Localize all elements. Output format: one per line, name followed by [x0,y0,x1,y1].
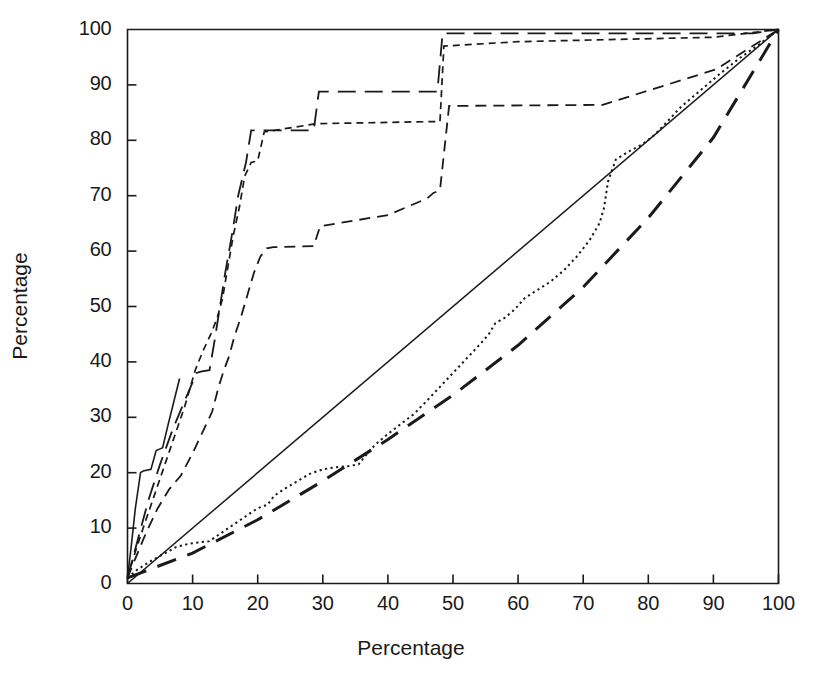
x-axis-ticks [128,575,779,584]
y-tick-label: 50 [0,294,112,317]
x-tick-label: 100 [739,592,819,615]
y-tick-label: 60 [0,238,112,261]
y-tick-label: 80 [0,127,112,150]
y-tick-label: 100 [0,17,112,40]
data-series-group [128,30,779,584]
lorenz-curve-chart: Percentage Percentage 010203040506070809… [0,0,822,682]
series-equality-line [128,30,779,584]
y-tick-label: 70 [0,183,112,206]
y-tick-label: 30 [0,404,112,427]
y-tick-label: 90 [0,72,112,95]
y-tick-label: 0 [0,571,112,594]
y-tick-label: 10 [0,515,112,538]
y-tick-label: 40 [0,349,112,372]
chart-canvas: Percentage [0,0,822,682]
x-axis-label: Percentage [0,636,822,660]
y-axis-ticks [128,85,137,528]
y-tick-label: 20 [0,460,112,483]
